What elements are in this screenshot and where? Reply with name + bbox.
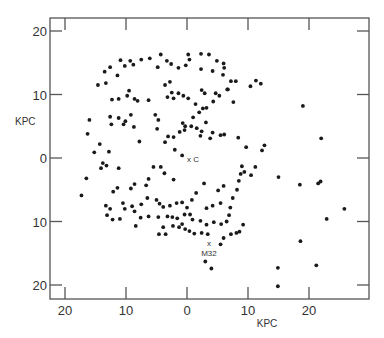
data-point — [183, 227, 187, 231]
data-point — [231, 100, 235, 104]
data-point — [161, 225, 165, 229]
data-point — [130, 204, 134, 208]
data-point — [254, 79, 258, 83]
data-point — [199, 67, 203, 71]
data-point — [125, 94, 129, 98]
data-point — [105, 213, 109, 217]
data-point — [205, 206, 209, 210]
data-point — [191, 115, 195, 119]
data-point — [319, 136, 323, 140]
data-point — [249, 173, 253, 177]
data-point — [136, 99, 140, 103]
data-point — [132, 125, 136, 129]
m32-label: M32 — [201, 249, 217, 258]
data-point — [110, 98, 114, 102]
data-point — [183, 128, 187, 132]
data-point — [171, 224, 175, 228]
data-point — [117, 116, 121, 120]
data-point — [260, 148, 264, 152]
data-point — [222, 66, 226, 70]
data-point — [103, 70, 107, 74]
data-point — [342, 207, 346, 211]
data-point — [107, 150, 111, 154]
data-point — [183, 213, 187, 217]
data-point — [208, 136, 212, 140]
data-point — [228, 206, 232, 210]
data-point — [211, 131, 215, 135]
data-point — [215, 59, 219, 63]
data-point — [216, 188, 220, 192]
data-point — [173, 148, 177, 152]
data-point — [153, 113, 157, 117]
data-point — [180, 222, 184, 226]
data-point — [170, 215, 174, 219]
data-point — [249, 84, 253, 88]
data-point — [116, 186, 120, 190]
data-point — [212, 220, 216, 224]
data-point — [101, 161, 105, 165]
data-point — [199, 52, 203, 56]
data-point — [156, 215, 160, 219]
data-point — [139, 216, 143, 220]
data-point — [188, 58, 192, 62]
data-point — [319, 180, 323, 184]
data-point — [108, 115, 112, 119]
data-point — [169, 62, 173, 66]
data-point — [166, 215, 170, 219]
x-tick-label: 20 — [58, 303, 72, 318]
data-point — [168, 204, 172, 208]
data-point — [195, 126, 199, 130]
data-point — [80, 194, 84, 198]
data-point — [235, 188, 239, 192]
data-point — [188, 213, 192, 217]
data-point — [207, 53, 211, 57]
data-point — [86, 132, 90, 136]
y-tick-label: 10 — [33, 215, 47, 230]
chart-container: 201001020 201001020 x CxM32 KPC KPC — [0, 0, 384, 338]
data-point — [211, 100, 215, 104]
data-point — [166, 95, 170, 99]
data-point — [172, 96, 176, 100]
data-point — [123, 64, 127, 68]
data-point — [147, 98, 151, 102]
data-point — [239, 172, 243, 176]
data-point — [156, 118, 160, 122]
data-point — [158, 202, 162, 206]
data-point — [88, 118, 92, 122]
data-point — [178, 130, 182, 134]
data-point — [131, 63, 135, 67]
data-point — [156, 65, 160, 69]
data-point — [168, 80, 172, 84]
data-point — [237, 179, 241, 183]
y-tick-label: 20 — [33, 24, 47, 39]
y-tick-label: 0 — [40, 151, 47, 166]
data-point — [166, 135, 170, 139]
data-point — [186, 96, 190, 100]
data-point — [253, 165, 257, 169]
data-point — [222, 133, 226, 137]
data-point — [222, 184, 226, 188]
data-point — [194, 102, 198, 106]
data-point — [127, 89, 131, 93]
data-point — [159, 53, 163, 57]
data-point — [221, 73, 225, 77]
data-point — [210, 267, 214, 271]
data-point — [189, 124, 193, 128]
data-point — [200, 88, 204, 92]
data-point — [172, 178, 176, 182]
data-point — [229, 232, 233, 236]
data-point — [111, 218, 115, 222]
data-point — [181, 94, 185, 98]
data-point — [211, 69, 215, 73]
data-point — [299, 239, 303, 243]
data-point — [119, 58, 123, 62]
data-point — [244, 145, 248, 149]
data-point — [197, 110, 201, 114]
data-point — [276, 266, 280, 270]
data-point — [133, 209, 137, 213]
data-point — [157, 232, 161, 236]
data-point — [225, 88, 229, 92]
data-point — [225, 220, 229, 224]
data-point — [277, 175, 281, 179]
data-point — [104, 81, 108, 85]
